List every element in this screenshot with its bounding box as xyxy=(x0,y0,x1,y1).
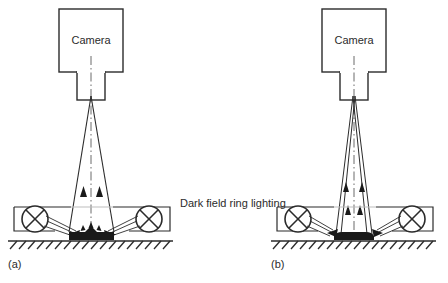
lamp-left-b xyxy=(285,206,311,232)
annotation-dark-field-ring-lighting: Dark field ring lighting xyxy=(180,197,286,209)
panel-caption-b: (b) xyxy=(271,258,284,270)
panel-caption-a: (a) xyxy=(8,258,21,270)
camera-label-b: Camera xyxy=(334,34,374,46)
camera-label-a: Camera xyxy=(71,34,111,46)
lamp-right-a xyxy=(136,206,162,232)
inspected-object-b xyxy=(334,232,374,240)
lamp-left-a xyxy=(22,206,48,232)
figure-dark-field-ring-lighting: Camera xyxy=(0,0,448,283)
lamp-right-b xyxy=(399,206,425,232)
diagram-canvas: Camera xyxy=(0,0,448,283)
inspected-object-a xyxy=(69,232,114,240)
